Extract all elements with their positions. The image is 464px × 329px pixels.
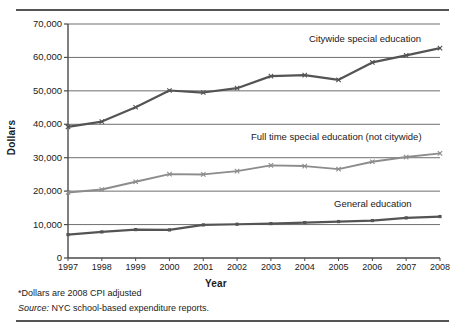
chart-svg: [0, 0, 464, 329]
data-point: [66, 233, 69, 236]
footnote-source: Source: NYC school-based expenditure rep…: [18, 303, 209, 313]
data-point: [202, 223, 205, 226]
data-point: [438, 215, 441, 218]
y-tick-label: 60,000: [14, 51, 62, 62]
data-point: [337, 220, 340, 223]
data-point: [269, 222, 272, 225]
data-point: [303, 221, 306, 224]
data-point: [235, 223, 238, 226]
footnote-source-text: NYC school-based expenditure reports.: [49, 303, 209, 313]
line-chart: [0, 0, 464, 329]
y-tick-label: 20,000: [14, 185, 62, 196]
series-line-2: [68, 217, 440, 235]
y-tick-label: 10,000: [14, 219, 62, 230]
y-tick-label: 30,000: [14, 152, 62, 163]
series-label-citywide: Citywide special education: [309, 33, 421, 44]
series-label-general: General education: [334, 198, 412, 209]
figure-container: Dollars Year 010,00020,00030,00040,00050…: [0, 0, 464, 329]
data-point: [405, 216, 408, 219]
y-tick-label: 70,000: [14, 18, 62, 29]
data-point: [371, 219, 374, 222]
footnote-cpi: *Dollars are 2008 CPI adjusted: [18, 288, 142, 298]
series-line-1: [68, 153, 440, 192]
footnote-source-prefix: Source:: [18, 303, 49, 313]
series-line-0: [68, 48, 440, 127]
x-axis-title: Year: [205, 278, 227, 289]
data-point: [100, 230, 103, 233]
y-tick-label: 40,000: [14, 118, 62, 129]
data-point: [134, 228, 137, 231]
y-tick-label: 50,000: [14, 85, 62, 96]
series-label-fulltime: Full time special education (not citywid…: [251, 131, 422, 142]
data-point: [168, 228, 171, 231]
x-tick-label: 2008: [420, 262, 460, 272]
